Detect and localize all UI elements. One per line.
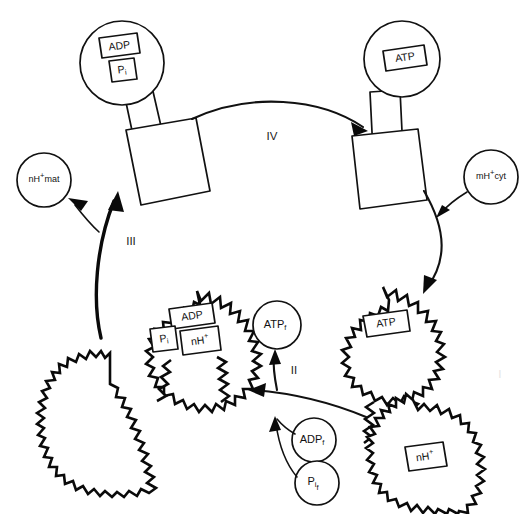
- metabolite-pi-free[interactable]: Pif: [295, 461, 339, 505]
- metabolite-adp-free[interactable]: ADPf: [292, 418, 336, 462]
- ligand-box-nh-bottom-left: nH+: [180, 326, 221, 355]
- step-label-iv: IV: [267, 130, 278, 142]
- ligand-box-pi-bottom-left: Pi: [150, 326, 178, 352]
- diagram-canvas: ADP Pi ATP ADP Pi: [0, 0, 528, 514]
- metabolite-atp-free[interactable]: ATPf: [253, 301, 301, 349]
- step-label-iii: III: [126, 235, 136, 247]
- ion-pool-nh-mat[interactable]: nH+mat: [17, 153, 71, 207]
- ligand-box-pi-top-left: Pi: [109, 58, 137, 82]
- ligand-box-nh-bottom-right: nH+: [405, 442, 447, 471]
- ligand-box-adp-top-left: ADP: [99, 33, 140, 58]
- enzyme-top-right-base: [352, 129, 427, 209]
- metabolite-adp-free-label: ADPf: [300, 433, 326, 447]
- enzyme-top-left-base: [126, 118, 210, 205]
- metabolite-atp-free-label: ATPf: [264, 318, 288, 332]
- step-label-ii: II: [291, 364, 297, 376]
- ion-pool-mh-cyt-circle: [464, 150, 518, 204]
- diagram-svg: ADP Pi ATP ADP Pi: [0, 0, 528, 514]
- ion-pool-mh-cyt[interactable]: mH+cyt: [464, 150, 518, 204]
- step-label-i: I: [499, 369, 502, 380]
